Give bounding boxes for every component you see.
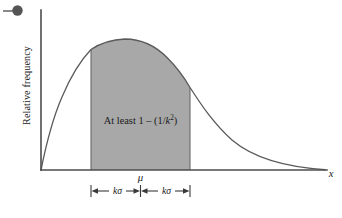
- right-interval-label: kσ: [162, 185, 172, 196]
- y-axis-label: Relative frequency: [21, 45, 32, 125]
- bullet-marker-group: [3, 5, 23, 15]
- left-arrowhead-left-icon: [92, 188, 99, 194]
- shaded-area-probability-label: At least 1 – (1/k2): [104, 114, 177, 127]
- inside-suffix-text: ): [174, 115, 177, 127]
- bullet-dot-icon: [12, 5, 22, 15]
- x-axis-label: x: [328, 168, 334, 179]
- mean-axis-label: μ: [137, 171, 144, 183]
- right-arrowhead-left-icon: [141, 188, 148, 194]
- left-interval-label: kσ: [113, 185, 123, 196]
- distribution-chart-svg: Relative frequency x At least 1 – (1/k2)…: [0, 0, 342, 218]
- left-arrowhead-right-icon: [134, 188, 141, 194]
- right-arrowhead-right-icon: [183, 188, 190, 194]
- shaded-probability-area: [91, 39, 190, 170]
- inside-prefix-text: At least 1 – (1/: [104, 115, 166, 127]
- chebyshev-figure-container: Relative frequency x At least 1 – (1/k2)…: [0, 0, 342, 218]
- interval-annotation-group: kσ kσ: [91, 185, 190, 197]
